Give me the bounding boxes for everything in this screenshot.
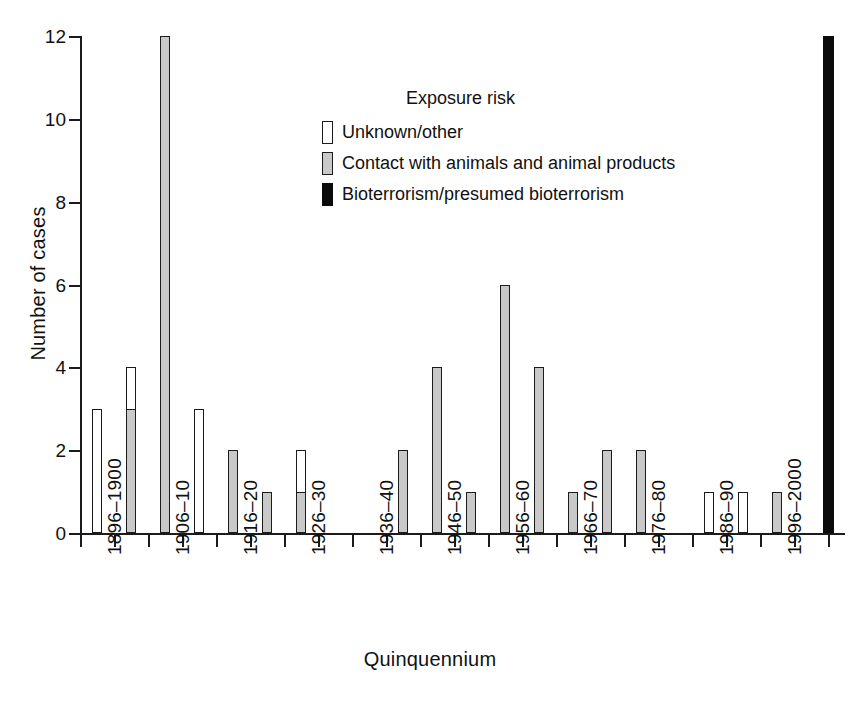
- bar: [500, 285, 510, 534]
- legend-title: Exposure risk: [406, 88, 752, 109]
- legend-swatch-icon: [322, 183, 333, 206]
- bar: [194, 409, 204, 533]
- x-tick-label: 1936–40: [377, 480, 396, 555]
- anthrax-cases-bar-chart: Number of cases 024681012 1896–19001906–…: [0, 0, 860, 706]
- x-tick-mark: [624, 533, 626, 547]
- x-tick-label: 1976–80: [649, 480, 668, 555]
- bar: [262, 492, 272, 533]
- legend-item-label: Unknown/other: [342, 122, 463, 143]
- bar: [823, 36, 834, 533]
- bar: [772, 492, 782, 533]
- legend-item-label: Contact with animals and animal products: [342, 153, 675, 174]
- legend-swatch-icon: [322, 152, 333, 175]
- y-tick-mark: [69, 533, 80, 535]
- legend-item: Bioterrorism/presumed bioterrorism: [322, 183, 752, 206]
- x-axis-title: Quinquennium: [0, 648, 860, 671]
- legend-item: Unknown/other: [322, 121, 752, 144]
- x-tick-label: 1986–90: [717, 480, 736, 555]
- plot-area: [0, 0, 860, 533]
- bar: [160, 36, 170, 533]
- x-tick-label: 1926–30: [309, 480, 328, 555]
- legend-item-label: Bioterrorism/presumed bioterrorism: [342, 184, 624, 205]
- bar: [636, 450, 646, 533]
- x-tick-mark: [148, 533, 150, 547]
- legend: Exposure risk Unknown/otherContact with …: [322, 88, 752, 214]
- x-tick-mark: [284, 533, 286, 547]
- bar: [228, 450, 238, 533]
- bar: [602, 450, 612, 533]
- bar: [296, 492, 306, 533]
- bar: [398, 450, 408, 533]
- x-tick-mark: [692, 533, 694, 547]
- x-tick-mark: [488, 533, 490, 547]
- legend-item: Contact with animals and animal products: [322, 152, 752, 175]
- bar: [738, 492, 748, 533]
- x-tick-mark: [352, 533, 354, 547]
- bar: [92, 409, 102, 533]
- x-tick-label: 1906–10: [173, 480, 192, 555]
- legend-items: Unknown/otherContact with animals and an…: [322, 121, 752, 206]
- x-tick-label: 1916–20: [241, 480, 260, 555]
- x-tick-mark: [80, 533, 82, 547]
- x-tick-mark: [828, 533, 830, 547]
- x-tick-label: 1896–1900: [105, 458, 124, 555]
- bar: [126, 409, 136, 533]
- bar: [432, 367, 442, 533]
- x-tick-label: 1996–2000: [785, 458, 804, 555]
- bar: [534, 367, 544, 533]
- bar: [466, 492, 476, 533]
- x-tick-label: 1966–70: [581, 480, 600, 555]
- x-tick-mark: [420, 533, 422, 547]
- legend-swatch-icon: [322, 121, 333, 144]
- bar: [568, 492, 578, 533]
- x-tick-label: 1956–60: [513, 480, 532, 555]
- x-tick-mark: [760, 533, 762, 547]
- x-tick-mark: [216, 533, 218, 547]
- x-tick-mark: [556, 533, 558, 547]
- x-tick-label: 1946–50: [445, 480, 464, 555]
- bar: [704, 492, 714, 533]
